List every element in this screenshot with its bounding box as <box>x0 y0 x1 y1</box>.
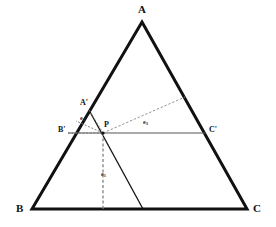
label-distance-e1-subscript: 1 <box>104 173 106 178</box>
label-vertex-c: C <box>253 203 261 214</box>
diagram-page: A B C A' B' C' P e1 e2 e3 <box>0 0 276 227</box>
point-p-marker <box>101 131 104 134</box>
distance-e3-dashed <box>103 97 185 133</box>
segment-a-prime-to-bc <box>89 110 143 209</box>
geometry-figure <box>0 0 276 227</box>
label-point-c-prime: C' <box>209 126 217 134</box>
label-point-a-prime: A' <box>80 99 88 107</box>
label-point-b-prime: B' <box>58 126 66 134</box>
label-vertex-b: B <box>16 203 23 214</box>
label-point-p: P <box>104 121 109 129</box>
label-distance-e2: e2 <box>80 115 85 122</box>
label-vertex-a: A <box>138 4 146 15</box>
label-distance-e1: e1 <box>101 171 106 178</box>
label-distance-e3-subscript: 3 <box>146 121 148 126</box>
label-distance-e3: e3 <box>143 119 148 126</box>
label-distance-e2-subscript: 2 <box>83 117 85 122</box>
triangle-abc <box>32 22 247 209</box>
